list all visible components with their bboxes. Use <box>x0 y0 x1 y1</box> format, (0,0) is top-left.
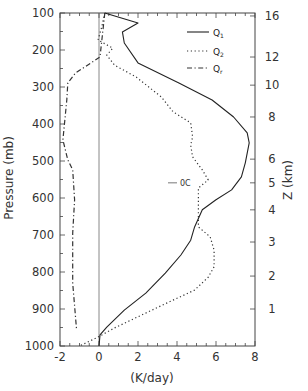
series-q2 <box>80 13 215 346</box>
legend-item-q1: Q1 <box>187 28 224 40</box>
y-tick-label: 300 <box>32 80 54 94</box>
right-axis-title: Z (km) <box>281 160 295 200</box>
right-tick-label: 10 <box>265 78 280 92</box>
right-tick-label: 3 <box>268 235 275 249</box>
x-axis-title: (K/day) <box>130 371 173 385</box>
x-tick-label: 8 <box>251 350 258 364</box>
right-tick-label: 16 <box>265 9 280 23</box>
svg-text:Q1: Q1 <box>213 28 224 40</box>
y-tick-label: 800 <box>32 265 54 279</box>
right-tick-label: 12 <box>265 50 280 64</box>
y-tick-label: 700 <box>32 228 54 242</box>
right-axis-ticks: 1612108654321 <box>250 9 279 316</box>
x-axis-ticks: -202468 <box>54 13 258 364</box>
annotations: 0C <box>168 179 191 188</box>
right-tick-label: 1 <box>268 302 275 316</box>
x-tick-label: 6 <box>212 350 219 364</box>
y-tick-label: 400 <box>32 117 54 131</box>
y-tick-label: 600 <box>32 191 54 205</box>
svg-text:Q2: Q2 <box>213 47 224 59</box>
legend-item-qr: Qr <box>187 64 223 76</box>
right-tick-label: 4 <box>268 203 275 217</box>
right-tick-label: 2 <box>268 269 275 283</box>
right-tick-label: 8 <box>268 110 275 124</box>
legend: Q1Q2Qr <box>187 28 224 76</box>
y-axis-title: Pressure (mb) <box>2 136 16 220</box>
y-tick-label: 900 <box>32 302 54 316</box>
freezing-level-label: 0C <box>180 179 191 188</box>
series-q1 <box>99 13 249 346</box>
x-tick-label: 0 <box>95 350 102 364</box>
x-tick-label: -2 <box>54 350 65 364</box>
plot-frame <box>60 13 255 346</box>
legend-item-q2: Q2 <box>187 47 224 59</box>
chart: -202468 1002003004005006007008009001000 … <box>0 0 308 391</box>
svg-text:Qr: Qr <box>213 64 223 76</box>
y-tick-label: 500 <box>32 154 54 168</box>
data-series <box>63 13 249 346</box>
x-tick-label: 4 <box>173 350 180 364</box>
right-tick-label: 6 <box>268 152 275 166</box>
y-tick-label: 200 <box>32 43 54 57</box>
x-tick-label: 2 <box>134 350 141 364</box>
right-tick-label: 5 <box>268 176 275 190</box>
y-tick-label: 100 <box>32 6 54 20</box>
y-axis-ticks: 1002003004005006007008009001000 <box>25 6 65 353</box>
y-tick-label: 1000 <box>25 339 54 353</box>
